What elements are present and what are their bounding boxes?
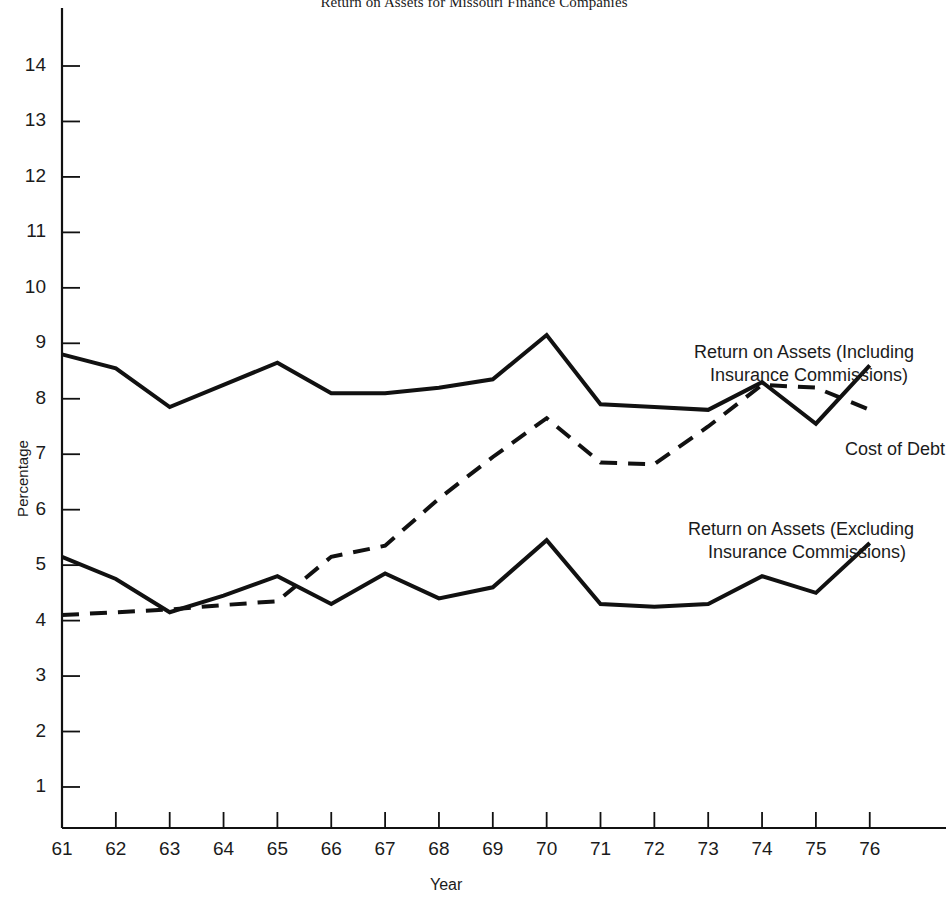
annotation-line-2: Insurance Commissions) [694,364,914,387]
annotation-cost-of-debt: Cost of Debt [845,438,945,461]
x-axis-tick-label: 61 [42,838,82,860]
x-axis-tick-label: 63 [150,838,190,860]
x-axis-tick-label: 66 [311,838,351,860]
annotation-line-2: Insurance Commissions) [688,541,914,564]
x-axis-tick-label: 75 [796,838,836,860]
annotation-return-including: Return on Assets (Including Insurance Co… [694,318,914,410]
y-axis-tick-label: 12 [14,165,46,187]
x-axis-tick-label: 64 [204,838,244,860]
chart-figure: Return on Assets for Missouri Finance Co… [0,0,948,908]
y-axis-tick-label: 4 [14,609,46,631]
x-axis-tick-label: 71 [581,838,621,860]
plot-area [0,0,948,908]
x-axis-tick-label: 68 [419,838,459,860]
y-axis-tick-label: 8 [14,387,46,409]
x-axis-tick-label: 69 [473,838,513,860]
y-axis-tick-label: 1 [14,775,46,797]
y-axis-tick-label: 5 [14,553,46,575]
x-axis-tick-label: 70 [527,838,567,860]
y-axis-tick-label: 14 [14,54,46,76]
annotation-line-1: Return on Assets (Excluding [688,519,914,539]
x-axis-tick-label: 72 [634,838,674,860]
y-axis-tick-label: 9 [14,331,46,353]
y-axis-ticks [62,66,80,787]
y-axis-tick-label: 2 [14,720,46,742]
y-axis-tick-label: 11 [14,220,46,242]
annotation-line-1: Return on Assets (Including [694,342,914,362]
y-axis-tick-label: 10 [14,276,46,298]
x-axis-tick-label: 74 [742,838,782,860]
x-axis-label: Year [430,876,462,894]
x-axis-ticks [116,812,870,828]
x-axis-tick-label: 76 [850,838,890,860]
annotation-return-excluding: Return on Assets (Excluding Insurance Co… [688,495,914,587]
x-axis-tick-label: 67 [365,838,405,860]
x-axis-tick-label: 65 [257,838,297,860]
y-axis-tick-label: 3 [14,664,46,686]
x-axis-tick-label: 62 [96,838,136,860]
axes [62,8,946,828]
y-axis-label: Percentage [14,429,31,529]
y-axis-tick-label: 13 [14,109,46,131]
x-axis-tick-label: 73 [688,838,728,860]
